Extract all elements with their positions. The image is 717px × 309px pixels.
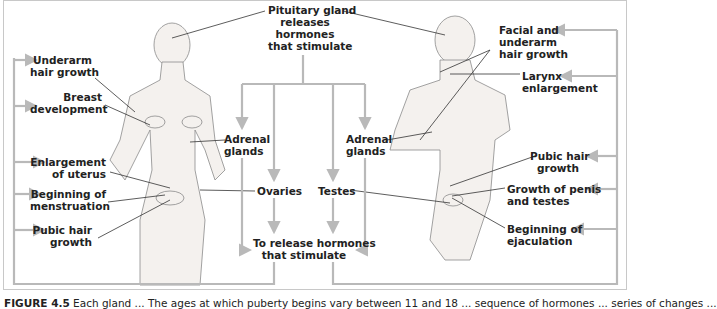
adrenal-glands-male-label: Adrenal glands <box>346 133 392 157</box>
larynx-enlargement-label: Larynx enlargement <box>522 70 598 94</box>
male-figure-illustration <box>390 16 510 260</box>
pituitary-line-4: that stimulate <box>268 40 342 52</box>
label-line: Pubic hair <box>30 224 92 236</box>
caption-label: FIGURE 4.5 <box>4 297 70 309</box>
adrenal-glands-female-label: Adrenal glands <box>224 133 270 157</box>
label-line: Breast <box>30 91 102 103</box>
label-line: of uterus <box>30 168 106 180</box>
label-line: Pubic hair <box>530 150 586 162</box>
label-line: and testes <box>507 195 601 207</box>
label-line: growth <box>30 236 92 248</box>
label-line: glands <box>224 145 270 157</box>
male-pubic-hair-label: Pubic hair growth <box>530 150 586 174</box>
pituitary-line-1: Pituitary gland <box>268 4 342 16</box>
beginning-of-menstruation-label: Beginning of menstruation <box>30 188 106 212</box>
label-line: growth <box>530 162 586 174</box>
label-line: ejaculation <box>507 235 582 247</box>
female-pubic-hair-label: Pubic hair growth <box>30 224 92 248</box>
label-line: Facial and <box>499 24 568 36</box>
label-line: menstruation <box>30 200 106 212</box>
label-line: Larynx <box>522 70 598 82</box>
caption-text: Each gland ... The ages at which puberty… <box>73 297 717 309</box>
label-line: Enlargement <box>30 156 106 168</box>
pituitary-line-3: hormones <box>268 28 342 40</box>
ovaries-label: Ovaries <box>257 185 302 197</box>
label-line: Adrenal <box>346 133 392 145</box>
label-line: To release hormones <box>253 237 355 249</box>
facial-underarm-hair-label: Facial and underarm hair growth <box>499 24 568 60</box>
label-line: Underarm <box>30 54 92 66</box>
testes-label: Testes <box>318 185 356 197</box>
label-line: Growth of penis <box>507 183 601 195</box>
label-line: Adrenal <box>224 133 270 145</box>
label-line: Beginning of <box>507 223 582 235</box>
label-line: hair growth <box>30 66 92 78</box>
beginning-of-ejaculation-label: Beginning of ejaculation <box>507 223 582 247</box>
label-line: glands <box>346 145 392 157</box>
label-line: underarm <box>499 36 568 48</box>
breast-development-label: Breast development <box>30 91 102 115</box>
figure-caption: FIGURE 4.5 Each gland ... The ages at wh… <box>4 297 717 309</box>
label-line: Beginning of <box>30 188 106 200</box>
release-hormones-label: To release hormones that stimulate <box>253 237 355 261</box>
label-line: that stimulate <box>253 249 355 261</box>
label-line: enlargement <box>522 82 598 94</box>
growth-penis-testes-label: Growth of penis and testes <box>507 183 601 207</box>
label-line: development <box>30 103 102 115</box>
female-figure-illustration <box>110 23 225 285</box>
pituitary-line-2: releases <box>268 16 342 28</box>
pituitary-label: Pituitary gland releases hormones that s… <box>268 4 342 52</box>
female-underarm-hair-label: Underarm hair growth <box>30 54 92 78</box>
label-line: hair growth <box>499 48 568 60</box>
enlargement-of-uterus-label: Enlargement of uterus <box>30 156 106 180</box>
